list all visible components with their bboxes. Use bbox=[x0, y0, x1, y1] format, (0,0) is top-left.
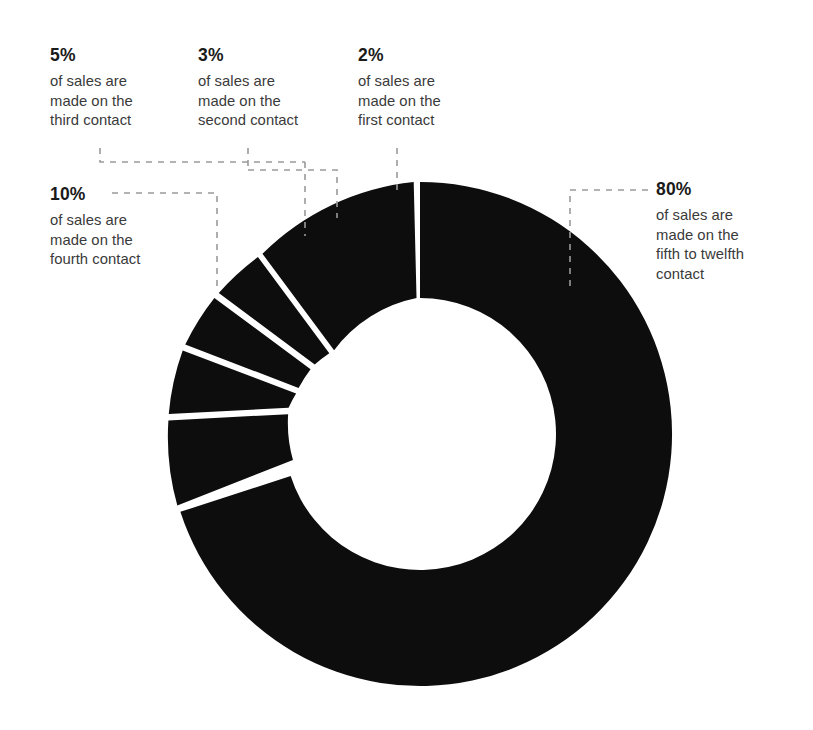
callout-percent-first: 2% bbox=[358, 44, 498, 67]
callout-description-fifth: of sales are made on the fifth to twelft… bbox=[656, 206, 808, 284]
callout-second-contact: 3% of sales are made on the second conta… bbox=[198, 44, 350, 131]
callout-first-contact: 2% of sales are made on the first contac… bbox=[358, 44, 498, 131]
callout-percent-third: 5% bbox=[50, 44, 190, 67]
callout-description-fourth: of sales are made on the fourth contact bbox=[50, 211, 210, 270]
callout-description-third: of sales are made on the third contact bbox=[50, 72, 190, 131]
donut-chart: 5% of sales are made on the third contac… bbox=[0, 0, 813, 730]
callout-percent-fifth: 80% bbox=[656, 178, 808, 201]
callout-fifth-to-twelfth-contact: 80% of sales are made on the fifth to tw… bbox=[656, 178, 808, 284]
callout-fourth-contact: 10% of sales are made on the fourth cont… bbox=[50, 183, 210, 270]
leader-line-third bbox=[100, 148, 305, 162]
callout-description-second: of sales are made on the second contact bbox=[198, 72, 350, 131]
callout-percent-second: 3% bbox=[198, 44, 350, 67]
donut-slices bbox=[168, 182, 672, 686]
callout-third-contact: 5% of sales are made on the third contac… bbox=[50, 44, 190, 131]
callout-percent-fourth: 10% bbox=[50, 183, 210, 206]
callout-description-first: of sales are made on the first contact bbox=[358, 72, 498, 131]
